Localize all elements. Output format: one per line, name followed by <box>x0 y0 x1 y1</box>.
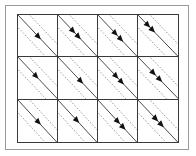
cell-diagonal-group-r2c3 <box>98 57 137 98</box>
grid-cell-r3c2 <box>58 100 98 142</box>
diagonal-line-dashed-0 <box>98 16 136 56</box>
diagonal-line-dashed-2 <box>99 15 137 55</box>
cell-diagonal-group-r3c1 <box>18 100 57 142</box>
diagonal-line-dashed-0 <box>138 16 177 56</box>
diagonal-line-dashed-0 <box>18 59 56 99</box>
grid-cell-container <box>18 15 178 142</box>
cell-diagonal-group-r1c3 <box>98 15 137 56</box>
cell-diagonal-group-r3c3 <box>98 100 137 142</box>
cell-diagonal-group-r1c4 <box>138 15 178 56</box>
grid-cell-r1c1 <box>18 15 58 57</box>
cell-diagonal-group-r3c2 <box>58 100 97 142</box>
diagonal-line-dashed-2 <box>19 57 57 97</box>
grid-cell-r2c3 <box>98 57 138 99</box>
figure-title <box>0 0 1 1</box>
grid-cell-r3c4 <box>138 100 178 142</box>
cell-diagonal-group-r2c1 <box>18 57 57 98</box>
diagonal-line-dashed-2 <box>139 100 178 141</box>
grid-cell-r1c3 <box>98 15 138 57</box>
grid-cell-r2c1 <box>18 57 58 99</box>
grid-cell-r1c2 <box>58 15 98 57</box>
diagonal-line-dashed-0 <box>138 101 177 142</box>
diagonal-line-solid-1 <box>138 15 178 56</box>
grid-cell-r2c2 <box>58 57 98 99</box>
grid-cell-r3c3 <box>98 100 138 142</box>
diagonal-line-dashed-0 <box>58 59 96 99</box>
grid-cell-r3c1 <box>18 100 58 142</box>
grid-cell-r1c4 <box>138 15 178 57</box>
diagonal-line-dashed-0 <box>98 59 136 99</box>
cell-diagonal-group-r3c4 <box>138 100 178 142</box>
diagonal-line-dashed-2 <box>99 57 137 97</box>
grid-panel <box>17 14 179 143</box>
diagonal-line-dashed-2 <box>139 15 178 55</box>
diagonal-line-dashed-2 <box>59 57 97 97</box>
cell-diagonal-group-r1c1 <box>18 15 57 56</box>
cell-diagonal-group-r2c4 <box>138 57 178 98</box>
cell-diagonal-group-r2c2 <box>58 57 97 98</box>
cell-diagonal-group-r1c2 <box>58 15 97 56</box>
grid-cell-r2c4 <box>138 57 178 99</box>
figure-root <box>0 0 196 156</box>
diagonal-line-solid-1 <box>58 57 97 98</box>
